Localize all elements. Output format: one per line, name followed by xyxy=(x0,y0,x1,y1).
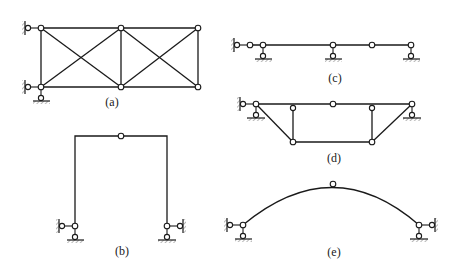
figure-a-truss: (a) xyxy=(22,21,201,109)
figure-c-multispan-beam: (c) xyxy=(231,38,420,85)
structural-diagrams: (a) (b) xyxy=(0,0,458,271)
caption-d: (d) xyxy=(327,151,341,165)
figure-b-portal-frame: (b) xyxy=(56,133,186,258)
hinge-icon xyxy=(25,25,30,30)
figure-d-trussed-beam: (d) xyxy=(237,97,421,165)
caption-c: (c) xyxy=(328,71,341,85)
caption-b: (b) xyxy=(115,244,129,258)
caption-e: (e) xyxy=(327,245,340,259)
caption-a: (a) xyxy=(105,95,118,109)
hinge-icon xyxy=(25,84,30,89)
figure-e-arch: (e) xyxy=(224,181,438,259)
